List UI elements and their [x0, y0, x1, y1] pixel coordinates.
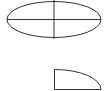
full-ellipse-diagram [7, 0, 101, 39]
quarter-ellipse-outline [55, 70, 102, 90]
diagram-canvas [0, 0, 107, 91]
quarter-ellipse-diagram [55, 70, 102, 90]
